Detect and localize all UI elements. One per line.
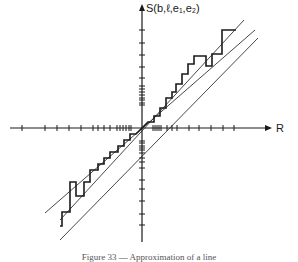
y-axis-arrow-icon (139, 4, 145, 11)
staircase-lower (60, 128, 142, 226)
lower-bound-line (60, 38, 258, 240)
x-axis-label: R (276, 123, 284, 134)
y-axis-label: S(b,ℓ,e₁,e₂) (146, 3, 200, 14)
bounding-lines (45, 20, 258, 240)
axes (10, 9, 268, 242)
figure-caption: Figure 33 — Approximation of a line (0, 252, 298, 262)
x-axis-arrow-icon (265, 125, 272, 131)
staircase-upper (142, 30, 236, 128)
